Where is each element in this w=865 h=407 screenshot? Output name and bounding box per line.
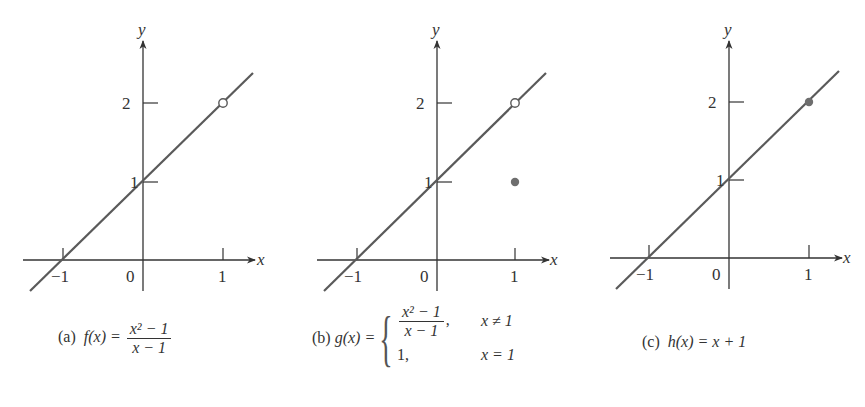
fraction-denominator: x − 1 xyxy=(127,339,172,357)
fraction-numerator: x² − 1 xyxy=(127,320,172,339)
tick-label-y1: 1 xyxy=(716,171,725,190)
caption-a-label: (a) xyxy=(58,328,76,345)
tick-label-x1: 1 xyxy=(218,267,227,286)
case-row-2: 1, x = 1 xyxy=(397,338,515,372)
case2-condition: x = 1 xyxy=(475,346,515,364)
plot-c: y x −1 0 1 1 2 xyxy=(580,0,865,300)
tick-label-neg1: −1 xyxy=(51,267,69,286)
case1-fraction: x² − 1 x − 1 xyxy=(399,303,444,340)
x-axis-label: x xyxy=(549,250,558,269)
caption-a: (a) f(x) = x² − 1 x − 1 xyxy=(58,320,173,357)
caption-b-func: g(x) = xyxy=(335,329,376,347)
filled-point xyxy=(511,178,519,186)
tick-label-y1: 1 xyxy=(424,173,433,192)
caption-b-label: (b) xyxy=(312,329,331,347)
caption-b: (b) g(x) = { x² − 1 x − 1 , x ≠ 1 1, x =… xyxy=(312,304,515,372)
tick-label-y1: 1 xyxy=(130,173,139,192)
tick-label-y2: 2 xyxy=(122,94,131,113)
tick-label-zero: 0 xyxy=(712,265,721,284)
tick-label-y2: 2 xyxy=(708,93,717,112)
fraction-denominator: x − 1 xyxy=(399,322,444,340)
filled-point xyxy=(805,98,813,106)
open-point xyxy=(219,99,227,107)
case-row-1: x² − 1 x − 1 , x ≠ 1 xyxy=(397,304,515,338)
plot-b: y x −1 0 1 1 2 xyxy=(295,0,585,300)
plot-a: y x −1 0 1 1 2 xyxy=(0,0,290,300)
y-axis-label: y xyxy=(722,20,732,39)
caption-a-fraction: x² − 1 x − 1 xyxy=(127,320,172,357)
tick-label-zero: 0 xyxy=(420,267,429,286)
case2-value: 1, xyxy=(397,346,475,364)
left-brace-icon: { xyxy=(379,307,392,369)
tick-label-zero: 0 xyxy=(126,267,135,286)
piecewise-cases: x² − 1 x − 1 , x ≠ 1 1, x = 1 xyxy=(397,304,515,372)
caption-c: (c) h(x) = x + 1 xyxy=(642,333,746,351)
case1-condition: x ≠ 1 xyxy=(475,312,513,330)
caption-c-text: h(x) = x + 1 xyxy=(668,333,746,350)
open-point xyxy=(511,99,519,107)
x-axis-label: x xyxy=(842,248,851,267)
caption-a-func: f(x) = xyxy=(84,328,121,345)
y-axis-label: y xyxy=(430,20,440,39)
tick-label-y2: 2 xyxy=(416,94,425,113)
x-axis-label: x xyxy=(256,250,265,269)
tick-label-x1: 1 xyxy=(804,265,813,284)
y-axis-label: y xyxy=(136,20,146,39)
caption-c-label: (c) xyxy=(642,333,660,350)
tick-label-neg1: −1 xyxy=(344,267,362,286)
fraction-numerator: x² − 1 xyxy=(399,303,444,322)
tick-label-neg1: −1 xyxy=(636,265,654,284)
tick-label-x1: 1 xyxy=(510,267,519,286)
